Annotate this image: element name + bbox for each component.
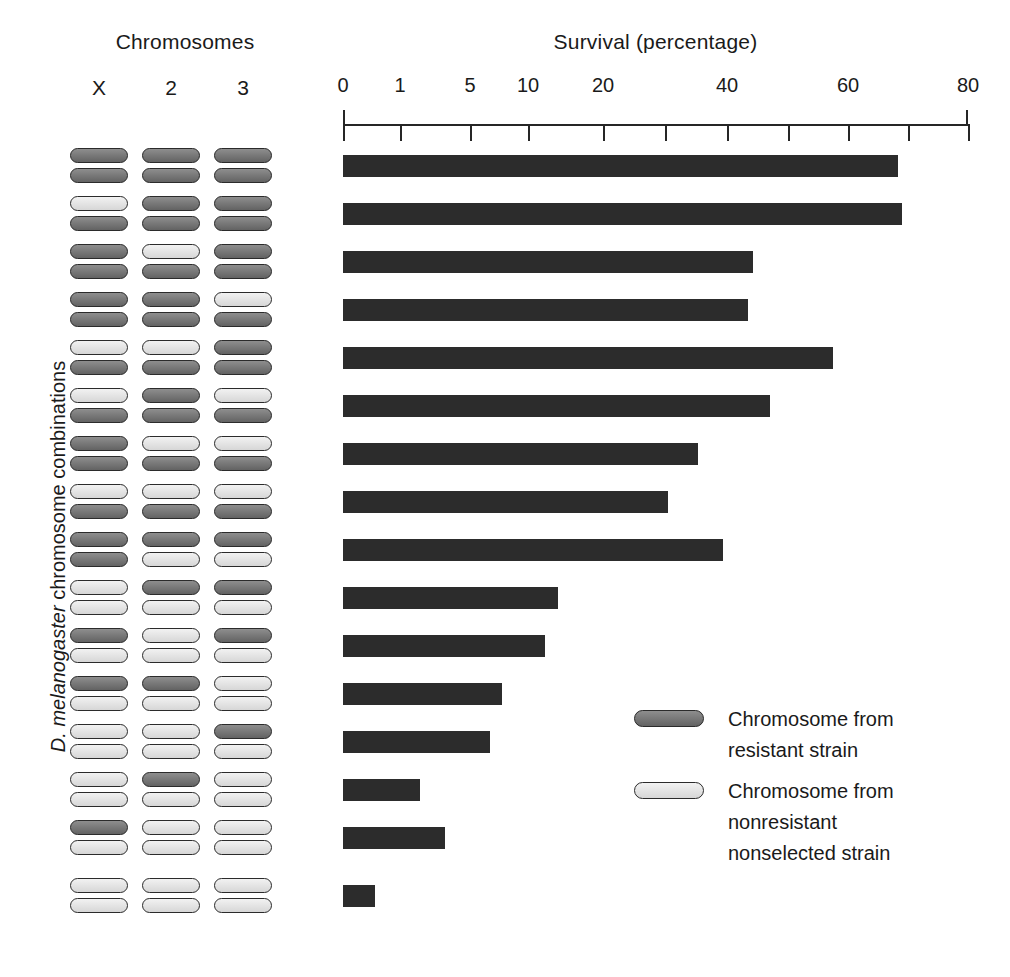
chromosome-row	[60, 532, 310, 570]
resistant-chromosome-icon	[142, 532, 200, 547]
column-header-2: 2	[142, 76, 200, 100]
nonresistant-chromosome-icon	[214, 600, 272, 615]
x-axis-tick-label: 40	[697, 74, 757, 97]
nonresistant-chromosome-icon	[214, 436, 272, 451]
nonresistant-chromosome-icon	[70, 580, 128, 595]
chromosome-row	[60, 628, 310, 666]
chromosome-row	[60, 878, 310, 916]
x-axis-tick	[968, 124, 970, 141]
chromosome-pair-cell	[214, 340, 272, 378]
resistant-chromosome-icon	[70, 408, 128, 423]
x-axis-tick-label: 1	[370, 74, 430, 97]
x-axis-tick	[603, 124, 605, 141]
x-axis-tick-label: 20	[573, 74, 633, 97]
nonresistant-chromosome-swatch-icon	[634, 782, 704, 799]
x-axis-tick-label: 80	[938, 74, 998, 97]
chromosome-pair-cell	[214, 148, 272, 186]
bar-row	[343, 340, 968, 378]
x-axis-tick	[470, 124, 472, 141]
column-header-3: 3	[214, 76, 272, 100]
resistant-chromosome-icon	[70, 532, 128, 547]
resistant-chromosome-icon	[214, 340, 272, 355]
nonresistant-chromosome-icon	[214, 484, 272, 499]
nonresistant-chromosome-icon	[70, 878, 128, 893]
resistant-chromosome-icon	[142, 772, 200, 787]
resistant-chromosome-icon	[70, 292, 128, 307]
chromosome-pair-cell	[70, 532, 128, 570]
chromosome-pair-cell	[70, 676, 128, 714]
nonresistant-chromosome-icon	[142, 696, 200, 711]
legend-line: resistant strain	[728, 735, 894, 766]
chromosomes-heading: Chromosomes	[60, 30, 310, 54]
resistant-chromosome-icon	[70, 312, 128, 327]
resistant-chromosome-icon	[70, 456, 128, 471]
resistant-chromosome-swatch-icon	[634, 710, 704, 727]
bar-row	[343, 436, 968, 474]
bar-row	[343, 148, 968, 186]
nonresistant-chromosome-icon	[70, 792, 128, 807]
resistant-chromosome-icon	[214, 264, 272, 279]
survival-bar	[343, 587, 558, 609]
nonresistant-chromosome-icon	[70, 696, 128, 711]
nonresistant-chromosome-icon	[142, 600, 200, 615]
survival-bar	[343, 299, 748, 321]
nonresistant-chromosome-icon	[214, 792, 272, 807]
chromosome-pair-cell	[70, 772, 128, 810]
nonresistant-chromosome-icon	[70, 840, 128, 855]
resistant-chromosome-icon	[70, 168, 128, 183]
x-axis-tick	[400, 124, 402, 141]
nonresistant-chromosome-icon	[142, 898, 200, 913]
nonresistant-chromosome-icon	[142, 724, 200, 739]
resistant-chromosome-icon	[70, 216, 128, 231]
resistant-chromosome-icon	[214, 216, 272, 231]
chromosome-row	[60, 580, 310, 618]
nonresistant-chromosome-icon	[70, 772, 128, 787]
nonresistant-chromosome-icon	[214, 772, 272, 787]
chromosome-pair-cell	[214, 580, 272, 618]
resistant-chromosome-icon	[214, 168, 272, 183]
survival-bar	[343, 635, 545, 657]
survival-bar	[343, 203, 902, 225]
resistant-chromosome-icon	[214, 456, 272, 471]
resistant-chromosome-icon	[142, 676, 200, 691]
nonresistant-chromosome-icon	[142, 628, 200, 643]
x-axis-tick	[528, 124, 530, 141]
nonresistant-chromosome-icon	[142, 792, 200, 807]
nonresistant-chromosome-icon	[214, 648, 272, 663]
resistant-chromosome-icon	[70, 820, 128, 835]
nonresistant-chromosome-icon	[214, 878, 272, 893]
x-axis-tick-label: 0	[313, 74, 373, 97]
chromosome-pair-cell	[142, 484, 200, 522]
resistant-chromosome-icon	[70, 148, 128, 163]
resistant-chromosome-icon	[214, 628, 272, 643]
bar-row	[343, 532, 968, 570]
nonresistant-chromosome-icon	[70, 600, 128, 615]
chromosome-pair-cell	[142, 628, 200, 666]
chromosome-pair-cell	[70, 878, 128, 916]
nonresistant-chromosome-icon	[142, 340, 200, 355]
nonresistant-chromosome-icon	[214, 292, 272, 307]
chromosome-pair-cell	[214, 878, 272, 916]
chromosome-pair-cell	[70, 580, 128, 618]
chromosome-pair-cell	[142, 340, 200, 378]
survival-bar	[343, 443, 698, 465]
chromosome-pair-cell	[214, 388, 272, 426]
chromosome-pair-cell	[142, 244, 200, 282]
x-axis-tick	[908, 124, 910, 141]
nonresistant-chromosome-icon	[142, 552, 200, 567]
nonresistant-chromosome-icon	[70, 388, 128, 403]
nonresistant-chromosome-icon	[214, 744, 272, 759]
nonresistant-chromosome-icon	[142, 820, 200, 835]
chromosome-pair-cell	[142, 676, 200, 714]
legend: Chromosome from resistant strain Chromos…	[624, 686, 1010, 878]
chromosome-combination-matrix	[60, 148, 310, 958]
bar-row	[343, 244, 968, 282]
resistant-chromosome-icon	[142, 312, 200, 327]
nonresistant-chromosome-icon	[142, 244, 200, 259]
chromosome-pair-cell	[70, 724, 128, 762]
resistant-chromosome-icon	[142, 168, 200, 183]
chromosome-pair-cell	[70, 340, 128, 378]
resistant-chromosome-icon	[214, 504, 272, 519]
x-axis-tick-label: 5	[440, 74, 500, 97]
resistant-chromosome-icon	[214, 312, 272, 327]
